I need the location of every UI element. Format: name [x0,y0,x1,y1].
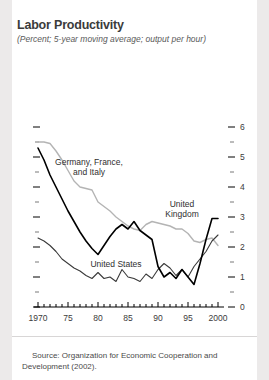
annotation-line: and Italy [73,167,106,177]
annotation-line: United [170,199,195,209]
footer-divider [12,336,257,337]
source-line-1: Source: Organization for Economic Cooper… [22,350,244,361]
x-axis-label: 2000 [209,313,228,323]
y-axis-label: 6 [240,122,245,132]
x-axis-label: 95 [183,313,193,323]
y-axis-label: 4 [240,182,245,192]
annotation-line: Germany, France, [55,157,123,167]
annotation-line: Kingdom [165,209,199,219]
source-note: Source: Organization for Economic Cooper… [22,350,244,372]
x-axis-label: 1970 [29,313,48,323]
annotation-line: United States [90,259,141,269]
x-axis-label: 90 [153,313,163,323]
y-axis-label: 3 [240,212,245,222]
y-axis-label: 1 [240,272,245,282]
y-axis-label: 2 [240,242,245,252]
annotation-united-states: United States [90,259,141,269]
annotation-united-kingdom: UnitedKingdom [165,199,199,219]
figure-panel: Labor Productivity (Percent; 5-year movi… [0,0,269,380]
x-axis-label: 75 [63,313,73,323]
y-axis-label: 5 [240,152,245,162]
line-chart: 0123456197075808590952000Germany, France… [0,0,269,380]
source-line-2: Development (2002). [22,361,244,372]
x-axis-label: 85 [123,313,133,323]
x-axis-label: 80 [93,313,103,323]
y-axis-label: 0 [240,302,245,312]
